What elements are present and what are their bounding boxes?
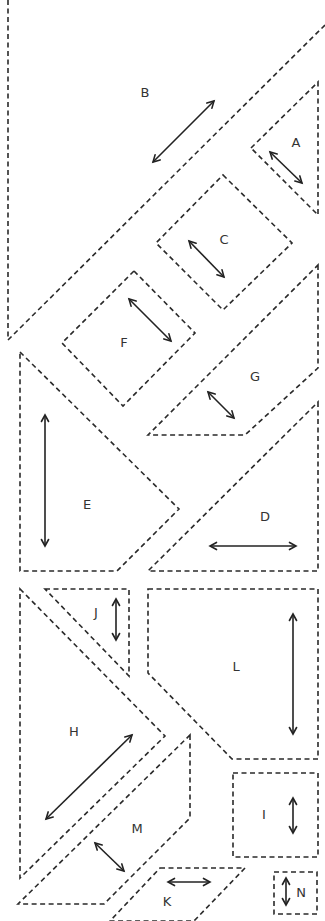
piece-outline xyxy=(148,265,318,435)
pattern-piece-m: M xyxy=(18,735,190,904)
pattern-piece-e: E xyxy=(20,352,179,571)
piece-label: N xyxy=(296,885,306,900)
grain-arrow-icon xyxy=(129,299,171,341)
pattern-piece-g: G xyxy=(148,265,318,435)
piece-outline xyxy=(8,0,325,340)
piece-outline xyxy=(20,589,165,878)
pattern-piece-k: K xyxy=(110,868,245,921)
piece-label: I xyxy=(262,807,266,822)
pattern-piece-i: I xyxy=(233,773,318,857)
piece-label: L xyxy=(232,659,240,674)
piece-outline xyxy=(233,773,318,857)
grain-arrow-icon xyxy=(95,843,124,871)
quilt-pattern-diagram: BACFGEDJLHMIKN xyxy=(0,0,325,921)
piece-label: K xyxy=(163,894,172,909)
piece-outline xyxy=(110,868,245,921)
pattern-piece-b: B xyxy=(8,0,325,340)
pattern-piece-c: C xyxy=(156,175,292,310)
piece-outline xyxy=(251,82,318,215)
piece-label: A xyxy=(292,135,301,150)
piece-label: D xyxy=(260,509,270,524)
grain-arrow-icon xyxy=(270,152,302,183)
grain-arrow-icon xyxy=(153,101,214,162)
piece-label: J xyxy=(93,605,98,620)
pattern-piece-h: H xyxy=(20,589,165,878)
grain-arrow-icon xyxy=(46,735,132,819)
pattern-piece-j: J xyxy=(45,589,129,676)
piece-label: F xyxy=(120,335,127,350)
piece-outline xyxy=(18,735,190,904)
piece-label: E xyxy=(83,497,91,512)
piece-label: B xyxy=(141,85,150,100)
grain-arrow-icon xyxy=(208,392,234,418)
piece-label: C xyxy=(219,232,228,247)
piece-outline xyxy=(20,352,179,571)
pattern-piece-n: N xyxy=(274,872,317,914)
pattern-piece-f: F xyxy=(62,271,195,406)
pattern-piece-l: L xyxy=(148,589,318,759)
piece-label: H xyxy=(69,724,79,739)
pattern-pieces: BACFGEDJLHMIKN xyxy=(8,0,325,921)
piece-outline xyxy=(62,271,195,406)
piece-label: M xyxy=(131,821,142,836)
pattern-piece-a: A xyxy=(251,82,318,215)
piece-label: G xyxy=(250,369,260,384)
pattern-piece-d: D xyxy=(148,402,318,571)
